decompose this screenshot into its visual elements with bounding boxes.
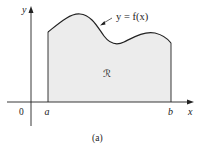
region-label: ℛ: [103, 68, 111, 79]
bound-a-label: a: [45, 106, 50, 117]
area-diagram: y = f(x) ℛ y x 0 a b (a): [0, 0, 200, 154]
origin-label: 0: [19, 107, 24, 117]
curve-label: y = f(x): [116, 11, 149, 23]
x-axis-label: x: [187, 106, 193, 117]
bound-b-label: b: [168, 106, 173, 117]
caption: (a): [92, 133, 103, 144]
y-axis-arrow-icon: [29, 6, 34, 13]
y-axis-label: y: [21, 4, 27, 15]
x-axis-arrow-icon: [187, 100, 194, 105]
leader-arrow-icon: [100, 21, 106, 26]
region-fill: [48, 14, 171, 102]
